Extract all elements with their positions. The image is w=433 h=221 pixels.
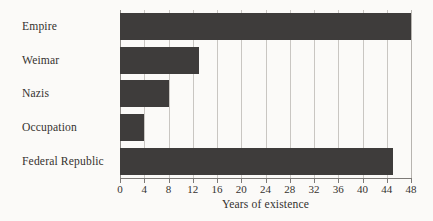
bar-weimar[interactable]: [120, 47, 199, 74]
bar-row: [120, 111, 411, 145]
x-axis-title: Years of existence: [120, 198, 411, 211]
category-label-row: Weimar: [0, 44, 112, 78]
tick-label-16: 16: [212, 183, 223, 195]
x-axis-tick-labels: 04812162024283236404448: [120, 183, 411, 199]
tick-label-36: 36: [333, 183, 344, 195]
category-label-occupation: Occupation: [0, 121, 77, 134]
gridline-48: [411, 10, 412, 178]
category-label-empire: Empire: [0, 20, 57, 33]
tick-label-32: 32: [309, 183, 320, 195]
tick-label-44: 44: [381, 183, 392, 195]
tick-label-0: 0: [117, 183, 123, 195]
bar-chart-figure: Empire Weimar Nazis Occupation Federal R…: [0, 0, 433, 221]
category-label-federal-republic: Federal Republic: [0, 155, 104, 168]
category-label-row: Empire: [0, 10, 112, 44]
bar-occupation[interactable]: [120, 114, 144, 141]
tick-label-40: 40: [357, 183, 368, 195]
tick-label-48: 48: [406, 183, 417, 195]
tick-label-4: 4: [142, 183, 148, 195]
bar-nazis[interactable]: [120, 80, 169, 107]
category-axis: Empire Weimar Nazis Occupation Federal R…: [0, 10, 112, 178]
bar-row: [120, 44, 411, 78]
tick-label-8: 8: [166, 183, 172, 195]
bars-group: [120, 10, 411, 178]
tick-label-20: 20: [236, 183, 247, 195]
bar-row: [120, 10, 411, 44]
bar-empire[interactable]: [120, 13, 411, 40]
bar-row: [120, 144, 411, 178]
tick-label-24: 24: [260, 183, 271, 195]
category-label-row: Federal Republic: [0, 144, 112, 178]
bar-row: [120, 77, 411, 111]
plot-area: [120, 10, 411, 178]
tick-label-28: 28: [284, 183, 295, 195]
bar-federal-republic[interactable]: [120, 148, 393, 175]
category-label-row: Occupation: [0, 111, 112, 145]
category-label-nazis: Nazis: [0, 87, 49, 100]
category-label-row: Nazis: [0, 77, 112, 111]
tick-label-12: 12: [187, 183, 198, 195]
category-label-weimar: Weimar: [0, 54, 59, 67]
